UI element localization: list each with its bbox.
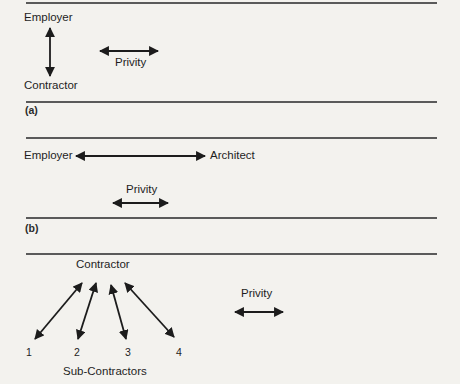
diagram-arrows <box>0 0 460 384</box>
double-arrow-contractor-sub4-icon <box>125 283 174 337</box>
double-arrow-contractor-sub3-icon <box>111 285 126 339</box>
book-page: Employer Contractor Privity (a) Employer… <box>0 0 460 384</box>
double-arrow-contractor-sub1-icon <box>35 283 82 339</box>
double-arrow-contractor-sub2-icon <box>78 283 96 339</box>
